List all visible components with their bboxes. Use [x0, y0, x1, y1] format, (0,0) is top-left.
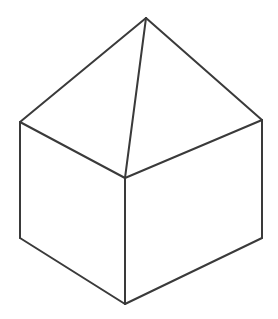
- edge-apex-to-left-top: [20, 18, 146, 122]
- edges-group: [20, 18, 262, 304]
- edge-apex-to-right-top: [146, 18, 262, 120]
- edge-right-top-to-front-top: [125, 120, 262, 178]
- edge-left-top-to-front-top: [20, 122, 125, 178]
- edge-left-bottom-to-front-bottom: [20, 238, 125, 304]
- edge-apex-to-front-top: [125, 18, 146, 178]
- edge-right-bottom-to-front-bottom: [125, 238, 262, 304]
- diagram-canvas: [0, 0, 278, 319]
- cube-with-pyramid-roof: [0, 0, 278, 319]
